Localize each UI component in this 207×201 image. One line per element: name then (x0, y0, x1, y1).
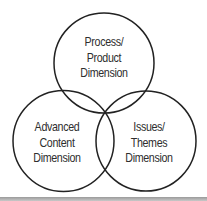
venn-diagram: Process/ Product Dimension Advanced Cont… (0, 0, 207, 201)
label-line: Dimension (116, 150, 182, 166)
label-line: Dimension (24, 150, 90, 166)
label-issues-themes: Issues/ Themes Dimension (116, 119, 182, 166)
bottom-divider (0, 197, 207, 201)
label-line: Product (71, 50, 137, 66)
label-line: Themes (116, 135, 182, 151)
label-line: Advanced (24, 119, 90, 135)
label-line: Issues/ (116, 119, 182, 135)
venn-circles (0, 0, 207, 201)
label-process-product: Process/ Product Dimension (71, 34, 137, 81)
label-line: Dimension (71, 65, 137, 81)
label-line: Content (24, 135, 90, 151)
label-line: Process/ (71, 34, 137, 50)
label-advanced-content: Advanced Content Dimension (24, 119, 90, 166)
